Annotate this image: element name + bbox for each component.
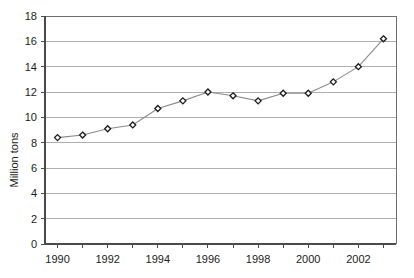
y-tick-label: 14 bbox=[25, 61, 37, 73]
x-tick-label: 1996 bbox=[196, 253, 220, 265]
data-series bbox=[58, 39, 384, 138]
data-markers bbox=[55, 36, 387, 141]
data-point-marker bbox=[305, 90, 311, 96]
chart-container: 024681012141618 199019921994199619982000… bbox=[0, 0, 414, 278]
data-point-marker bbox=[155, 105, 161, 111]
y-tick-label: 6 bbox=[31, 162, 37, 174]
y-tick-label: 4 bbox=[31, 187, 37, 199]
y-tick-label: 18 bbox=[25, 10, 37, 22]
y-tick-label: 2 bbox=[31, 213, 37, 225]
x-tick-label: 1992 bbox=[95, 253, 119, 265]
x-tick-label: 1990 bbox=[45, 253, 69, 265]
y-tick-label: 12 bbox=[25, 86, 37, 98]
y-tick-label: 0 bbox=[31, 238, 37, 250]
y-axis-ticks: 024681012141618 bbox=[25, 10, 45, 250]
data-point-marker bbox=[105, 126, 111, 132]
data-point-marker bbox=[80, 132, 86, 138]
y-tick-label: 10 bbox=[25, 111, 37, 123]
data-point-marker bbox=[130, 122, 136, 128]
data-point-marker bbox=[280, 90, 286, 96]
data-point-marker bbox=[230, 93, 236, 99]
data-point-marker bbox=[55, 135, 61, 141]
y-axis-title: Million tons bbox=[8, 132, 20, 188]
gridlines bbox=[45, 41, 396, 218]
plot-frame bbox=[45, 16, 396, 244]
x-tick-label: 1994 bbox=[146, 253, 170, 265]
x-tick-label: 2000 bbox=[296, 253, 320, 265]
x-tick-label: 2002 bbox=[346, 253, 370, 265]
data-point-marker bbox=[330, 79, 336, 85]
data-point-marker bbox=[205, 89, 211, 95]
x-axis-ticks: 1990199219941996199820002002 bbox=[45, 244, 383, 265]
data-point-marker bbox=[180, 98, 186, 104]
x-tick-label: 1998 bbox=[246, 253, 270, 265]
y-tick-label: 8 bbox=[31, 137, 37, 149]
y-tick-label: 16 bbox=[25, 35, 37, 47]
line-chart: 024681012141618 199019921994199619982000… bbox=[0, 0, 414, 278]
data-point-marker bbox=[255, 98, 261, 104]
series-line-million-tons bbox=[58, 39, 384, 138]
